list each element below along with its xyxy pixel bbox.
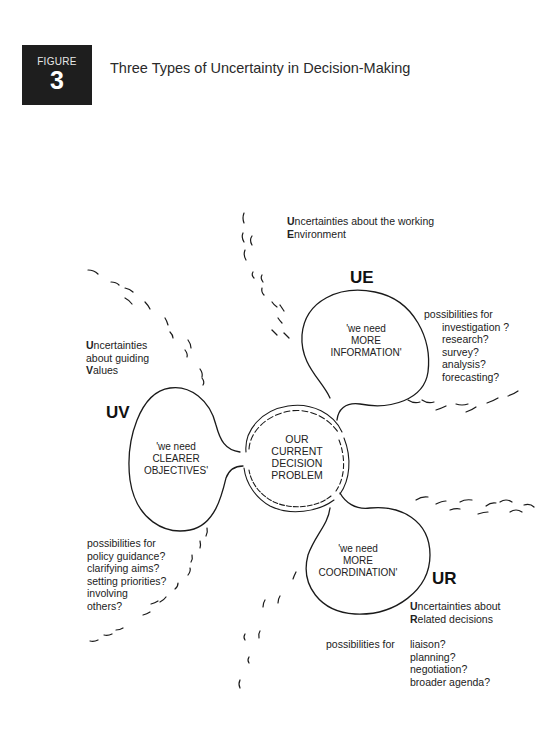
center-problem-text: OUR CURRENT DECISION PROBLEM	[262, 433, 332, 481]
ur-boundary-dashes	[239, 572, 296, 688]
uv-possibility: clarifying aims?	[87, 562, 166, 575]
uv-bubble-line: 'we need	[136, 441, 216, 453]
ur-heading-line2: elated decisions	[418, 613, 493, 625]
ue-heading-line1: ncertainties about the working	[295, 215, 435, 227]
ue-possibilities: possibilities for investigation ? resear…	[424, 308, 509, 383]
uv-heading: Uncertainties about guiding Values	[86, 339, 149, 377]
ue-boundary-dashes	[242, 213, 289, 338]
uv-bubble-text: 'we need CLEARER OBJECTIVES'	[136, 441, 216, 477]
uv-possibility: setting priorities?	[87, 575, 166, 588]
uv-possibility: policy guidance?	[87, 550, 166, 563]
ue-bubble-line: 'we need	[326, 323, 406, 335]
ue-bubble-text: 'we need MORE INFORMATION'	[326, 323, 406, 359]
ur-heading-line1: ncertainties about	[418, 600, 501, 612]
center-line: CURRENT	[262, 445, 332, 457]
ue-bubble-line: INFORMATION'	[326, 347, 406, 359]
ur-heading-initial: U	[410, 600, 418, 612]
ue-heading-initial: U	[287, 215, 295, 227]
ue-heading-line2: nvironment	[294, 228, 346, 240]
uv-heading-line2: about guiding	[86, 352, 149, 365]
uv-code: UV	[106, 403, 130, 423]
uv-possibilities: possibilities for policy guidance? clari…	[87, 537, 166, 612]
uv-bubble-line: OBJECTIVES'	[136, 465, 216, 477]
ue-possibilities-label: possibilities for	[424, 308, 509, 321]
ue-lower-dashes	[408, 391, 518, 412]
uv-possibility: others?	[87, 600, 166, 613]
ur-bubble-line: COORDINATION'	[318, 567, 398, 579]
ue-bubble-line: MORE	[326, 335, 406, 347]
ur-bubble-line: 'we need	[318, 543, 398, 555]
ue-possibility: research?	[424, 333, 509, 346]
ur-possibility: negotiation?	[410, 663, 490, 676]
ur-upper-dashes	[416, 497, 534, 514]
ur-possibility: planning?	[410, 651, 490, 664]
ur-possibilities: liaison? planning? negotiation? broader …	[410, 638, 490, 688]
uv-heading-initial: U	[86, 339, 94, 351]
center-line: OUR	[262, 433, 332, 445]
ur-heading: Uncertainties about Related decisions	[410, 600, 500, 625]
center-line: PROBLEM	[262, 469, 332, 481]
ue-possibility: analysis?	[424, 358, 509, 371]
uv-possibility: involving	[87, 587, 166, 600]
ue-possibility: survey?	[424, 346, 509, 359]
ur-possibility: liaison?	[410, 638, 490, 651]
uv-heading-initial3: V	[86, 364, 93, 376]
ur-code: UR	[432, 569, 457, 589]
ur-possibilities-label: possibilities for	[326, 638, 395, 651]
ue-heading-initial2: E	[287, 228, 294, 240]
uv-bubble-line: CLEARER	[136, 453, 216, 465]
ue-possibility: investigation ?	[424, 321, 509, 334]
ue-possibility: forecasting?	[424, 371, 509, 384]
ur-possibility: broader agenda?	[410, 676, 490, 689]
ur-heading-initial2: R	[410, 613, 418, 625]
ue-code: UE	[350, 268, 374, 288]
uv-heading-line1: ncertainties	[94, 339, 148, 351]
uv-possibilities-label: possibilities for	[87, 537, 166, 550]
ue-heading: Uncertainties about the working Environm…	[287, 215, 434, 240]
ur-bubble-line: MORE	[318, 555, 398, 567]
ur-bubble-text: 'we need MORE COORDINATION'	[318, 543, 398, 579]
uv-heading-line3: alues	[93, 364, 118, 376]
center-line: DECISION	[262, 457, 332, 469]
